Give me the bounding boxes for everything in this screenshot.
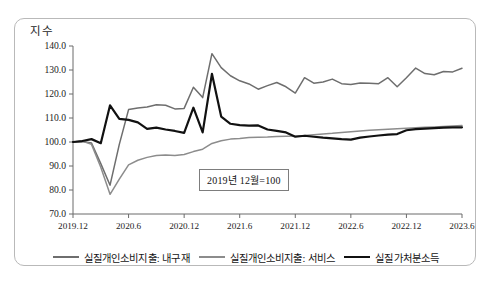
- x-tick-label: 2022.6: [338, 221, 364, 231]
- legend-line-icon-services: [199, 256, 225, 258]
- x-tick-label: 2020.12: [169, 221, 199, 231]
- y-tick-label: 80.0: [49, 184, 66, 195]
- base-period-note: 2019년 12월=100: [199, 169, 289, 191]
- x-tick-label: 2019.12: [58, 221, 88, 231]
- legend-label-services: 실질개인소비지출: 서비스: [230, 250, 336, 265]
- legend-label-income: 실질가처분소득: [375, 250, 439, 265]
- y-tick-label: 90.0: [49, 160, 66, 171]
- legend-item-services: 실질개인소비지출: 서비스: [199, 250, 336, 265]
- y-tick-label: 110.0: [45, 112, 66, 123]
- chart-legend: 실질개인소비지출: 내구재 실질개인소비지출: 서비스 실질가처분소득: [22, 246, 470, 268]
- legend-line-icon-durables: [53, 256, 79, 258]
- y-tick-label: 70.0: [49, 208, 66, 219]
- x-tick-label: 2023.6: [449, 221, 475, 231]
- legend-item-income: 실질가처분소득: [344, 250, 439, 265]
- legend-item-durables: 실질개인소비지출: 내구재: [53, 250, 190, 265]
- plot-area: 70.080.090.0100.0110.0120.0130.0140.0201…: [0, 0, 491, 281]
- legend-label-durables: 실질개인소비지출: 내구재: [84, 250, 190, 265]
- y-tick-label: 130.0: [44, 64, 66, 75]
- x-tick-label: 2022.12: [391, 221, 421, 231]
- series-line: [73, 54, 462, 186]
- x-tick-label: 2020.6: [116, 221, 142, 231]
- legend-line-icon-income: [344, 256, 370, 258]
- chart-figure: 지수 70.080.090.0100.0110.0120.0130.0140.0…: [0, 0, 491, 281]
- line-chart-svg: 70.080.090.0100.0110.0120.0130.0140.0201…: [0, 0, 491, 281]
- x-tick-label: 2021.12: [280, 221, 310, 231]
- x-tick-label: 2021.6: [227, 221, 253, 231]
- y-tick-label: 120.0: [44, 88, 66, 99]
- y-tick-label: 140.0: [44, 40, 66, 51]
- y-tick-label: 100.0: [44, 136, 66, 147]
